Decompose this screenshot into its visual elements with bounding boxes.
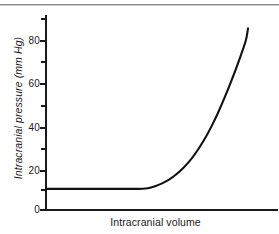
plot-area <box>0 0 279 234</box>
y-axis-title: Intracranial pressure (mm Hg) <box>12 18 24 198</box>
pressure-volume-curve <box>46 28 248 189</box>
y-tick-label-0: 0 <box>18 205 40 215</box>
x-axis-title: Intracranial volume <box>46 216 265 228</box>
y-axis-major-ticks <box>40 41 46 210</box>
figure-intracranial-pressure-volume-curve: 80 60 40 20 0 Intracranial pressure (mm … <box>0 0 279 234</box>
